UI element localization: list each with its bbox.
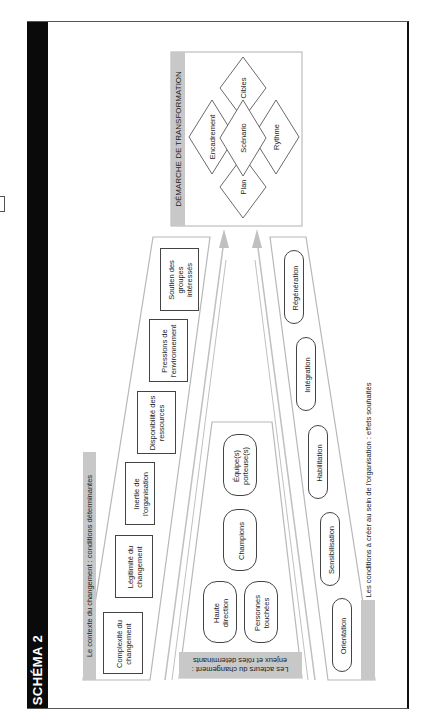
context-box-complexite: Complexité du changement <box>103 612 143 674</box>
condition-sensibilisation: Sensibilisation <box>320 512 340 586</box>
context-label: Le contexte du changement : conditions d… <box>85 475 94 657</box>
context-box-soutien: Soutien des groupes intéressés <box>160 248 199 311</box>
schema-title: SCHÉMA 2 <box>30 635 45 706</box>
diamond-encadrement: Encadrement <box>208 115 217 160</box>
actor-haute-direction: Haute direction <box>203 581 237 643</box>
diamond-rythme: Rythme <box>272 124 281 150</box>
condition-habilitation: Habilitation <box>308 425 328 499</box>
actors-label: Les acteurs du changement : enjeux et rô… <box>181 656 299 674</box>
transformation-header: DÉMARCHE DE TRANSFORMATION <box>174 71 183 207</box>
actor-personnes-touchees: Personnes touchées <box>244 581 278 643</box>
condition-integration: Intégration <box>296 337 316 411</box>
actor-equipes-porteuses: Équipe(s) porteuse(s) <box>223 434 257 496</box>
condition-regeneration: Régénération <box>284 250 304 324</box>
context-box-pressions: Pressions de l'environnement <box>149 319 188 382</box>
context-box-disponibilite: Disponibilité des ressources <box>137 391 176 454</box>
diamond-plan: Plan <box>239 179 248 194</box>
actor-champions: Champions <box>223 509 257 571</box>
diamond-cibles: Cibles <box>239 78 248 99</box>
context-box-inertie: Inertie de l'organisation <box>125 462 155 525</box>
diamond-scenario: Scénario <box>239 123 248 153</box>
conditions-label: Les conditions à créer au sein de l'orga… <box>364 383 373 598</box>
context-box-legitimite: Légitimité du changement <box>115 535 153 598</box>
condition-orientation: Orientation <box>332 598 352 672</box>
